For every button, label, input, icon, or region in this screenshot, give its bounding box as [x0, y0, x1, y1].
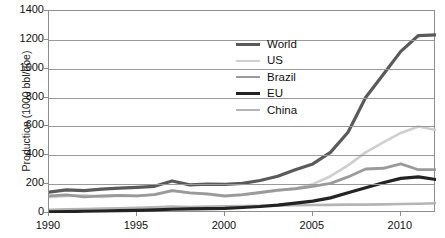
x-tick-mark	[136, 212, 137, 216]
x-tick-label: 2010	[386, 220, 414, 231]
x-tick-mark	[224, 212, 225, 216]
x-tick-label: 2005	[298, 220, 326, 231]
x-tick-mark	[48, 212, 49, 216]
y-tick-mark	[44, 183, 48, 184]
y-tick-label: 1200	[14, 33, 44, 44]
legend-item-world[interactable]: World	[236, 36, 297, 53]
y-tick-mark	[44, 68, 48, 69]
legend-swatch-us-icon	[236, 60, 260, 62]
legend-label: US	[267, 55, 283, 67]
legend-label: EU	[267, 88, 283, 100]
x-tick-label: 1995	[122, 220, 150, 231]
y-tick-label: 800	[14, 91, 44, 102]
y-tick-label: 1000	[14, 62, 44, 73]
series-line-brazil	[49, 164, 436, 197]
line-chart-figure: Production (1000 bbl/doe) 02004006008001…	[0, 0, 445, 238]
y-axis-tick-labels: 0200400600800100012001400	[0, 0, 44, 238]
y-tick-label: 400	[14, 148, 44, 159]
y-tick-mark	[44, 10, 48, 11]
gridline	[49, 155, 434, 156]
x-tick-label: 2000	[210, 220, 238, 231]
legend-label: Brazil	[267, 72, 296, 84]
y-tick-label: 200	[14, 177, 44, 188]
y-tick-label: 0	[14, 206, 44, 217]
y-tick-mark	[44, 97, 48, 98]
legend-label: China	[267, 105, 297, 117]
legend-swatch-world-icon	[236, 43, 260, 46]
y-tick-label: 1400	[14, 4, 44, 15]
series-line-us	[49, 126, 436, 197]
x-tick-mark	[312, 212, 313, 216]
y-tick-mark	[44, 39, 48, 40]
x-tick-mark	[400, 212, 401, 216]
legend-swatch-brazil-icon	[236, 76, 260, 78]
legend-item-china[interactable]: China	[236, 102, 297, 119]
legend-swatch-eu-icon	[236, 92, 260, 95]
x-tick-label: 1990	[34, 220, 62, 231]
gridline	[49, 184, 434, 185]
gridline	[49, 126, 434, 127]
legend-swatch-china-icon	[236, 109, 260, 111]
y-tick-mark	[44, 154, 48, 155]
y-tick-label: 600	[14, 119, 44, 130]
legend-item-us[interactable]: US	[236, 53, 297, 70]
legend-item-eu[interactable]: EU	[236, 86, 297, 103]
chart-legend: WorldUSBrazilEUChina	[236, 36, 297, 119]
legend-label: World	[267, 39, 297, 51]
y-tick-mark	[44, 125, 48, 126]
legend-item-brazil[interactable]: Brazil	[236, 69, 297, 86]
